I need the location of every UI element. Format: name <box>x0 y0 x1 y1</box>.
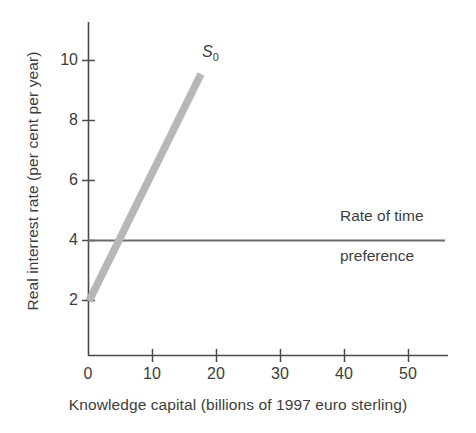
x-axis-title: Knowledge capital (billions of 1997 euro… <box>0 396 476 414</box>
y-tick-label-6: 6 <box>44 172 78 188</box>
rate-of-time-preference-label: Rate of time preference <box>340 186 424 286</box>
y-tick-label-10: 10 <box>44 52 78 68</box>
x-tick-label-50: 50 <box>388 366 428 382</box>
rate-label-line-1: Rate of time <box>340 206 424 226</box>
y-axis-title: Real interrest rate (per cent per year) <box>24 16 42 346</box>
series-label-s0-letter: S <box>202 43 213 60</box>
x-tick-label-20: 20 <box>196 366 236 382</box>
series-label-s0: S0 <box>202 43 219 63</box>
x-tick-label-30: 30 <box>260 366 300 382</box>
y-tick-label-2: 2 <box>44 292 78 308</box>
rate-label-line-2: preference <box>340 246 424 266</box>
x-tick-label-10: 10 <box>132 366 172 382</box>
x-tick-label-40: 40 <box>324 366 364 382</box>
x-tick-label-0: 0 <box>68 366 108 382</box>
supply-curve-s0 <box>89 74 201 301</box>
y-tick-label-8: 8 <box>44 112 78 128</box>
series-label-s0-subscript: 0 <box>213 51 219 63</box>
chart-figure: 10 8 6 4 2 0 10 20 30 40 50 Real interre… <box>0 0 476 433</box>
y-tick-label-4: 4 <box>44 232 78 248</box>
